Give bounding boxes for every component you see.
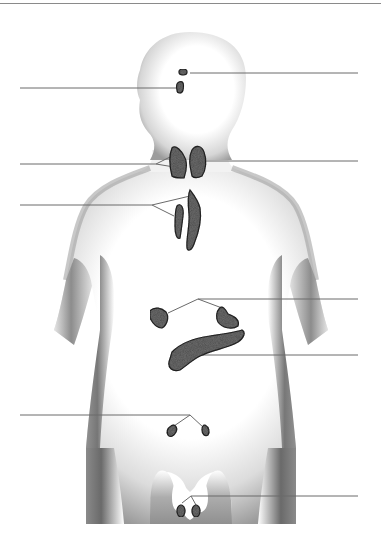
right-arm-shade bbox=[290, 258, 328, 345]
endocrine-diagram bbox=[0, 0, 381, 559]
head-shape bbox=[137, 32, 246, 160]
left-arm-shade bbox=[54, 258, 92, 345]
gland-thyroid-right-lobe[interactable] bbox=[190, 146, 206, 177]
gland-pituitary[interactable] bbox=[177, 82, 184, 93]
gland-testis-left[interactable] bbox=[177, 505, 185, 517]
gland-testis-right[interactable] bbox=[192, 505, 200, 517]
body-silhouette bbox=[54, 32, 328, 524]
gland-pineal[interactable] bbox=[179, 69, 187, 75]
